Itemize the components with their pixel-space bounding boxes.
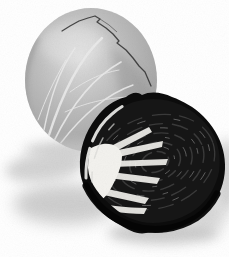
cabbage-photo bbox=[0, 0, 229, 257]
grain-overlay bbox=[0, 0, 229, 257]
photo-svg bbox=[0, 0, 229, 257]
